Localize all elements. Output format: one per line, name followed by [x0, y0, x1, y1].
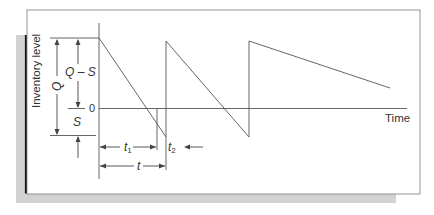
inventory-diagram: Q Q – S S 0 Inventory level Time t1 t2 [0, 0, 434, 215]
s-label: S [73, 115, 81, 129]
x-axis-label: Time [385, 112, 410, 124]
q-label: Q [50, 82, 64, 91]
y-axis-label: Inventory level [30, 34, 42, 108]
q-minus-s-label: Q – S [65, 65, 96, 79]
zero-label: 0 [89, 102, 95, 114]
